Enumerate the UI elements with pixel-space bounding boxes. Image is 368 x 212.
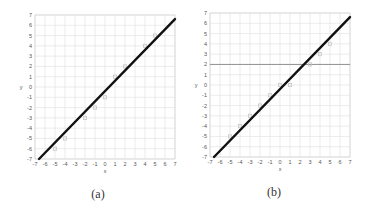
- chart-b: -7-6-5-4-3-2-101234567-7-6-5-4-3-2-10123…: [184, 0, 368, 180]
- svg-text:6: 6: [338, 159, 341, 165]
- y-axis-label: y: [20, 84, 23, 90]
- svg-text:7: 7: [348, 159, 351, 165]
- svg-text:-7: -7: [202, 154, 207, 160]
- grid: [210, 13, 350, 157]
- svg-text:2: 2: [29, 63, 32, 69]
- fit-line: [214, 17, 350, 157]
- svg-text:-1: -1: [268, 159, 273, 165]
- y-axis-label: y: [195, 82, 198, 88]
- svg-text:2: 2: [123, 161, 126, 167]
- svg-text:4: 4: [318, 159, 321, 165]
- svg-text:-4: -4: [202, 123, 207, 129]
- svg-text:-2: -2: [258, 159, 263, 165]
- svg-text:3: 3: [133, 161, 136, 167]
- svg-text:3: 3: [204, 51, 207, 57]
- svg-text:5: 5: [204, 31, 207, 37]
- svg-text:4: 4: [143, 161, 146, 167]
- svg-text:-2: -2: [83, 161, 88, 167]
- svg-text:5: 5: [328, 159, 331, 165]
- svg-text:-6: -6: [202, 144, 207, 150]
- svg-text:-1: -1: [93, 161, 98, 167]
- svg-text:6: 6: [163, 161, 166, 167]
- svg-text:6: 6: [204, 20, 207, 26]
- svg-text:-6: -6: [43, 161, 48, 167]
- svg-text:-3: -3: [202, 113, 207, 119]
- svg-text:-4: -4: [238, 159, 243, 165]
- svg-text:0: 0: [204, 82, 207, 88]
- caption-a: (a): [78, 187, 118, 202]
- svg-text:0: 0: [29, 84, 32, 90]
- svg-text:-2: -2: [202, 103, 207, 109]
- x-axis-label: x: [279, 166, 282, 172]
- svg-text:4: 4: [204, 41, 207, 47]
- svg-text:-5: -5: [228, 159, 233, 165]
- svg-text:-1: -1: [202, 92, 207, 98]
- chart-a: -7-6-5-4-3-2-101234567-7-6-5-4-3-2-10123…: [0, 0, 184, 180]
- svg-text:3: 3: [308, 159, 311, 165]
- x-axis-label: x: [104, 168, 107, 174]
- svg-text:-5: -5: [27, 135, 32, 141]
- svg-text:3: 3: [29, 53, 32, 59]
- svg-text:-3: -3: [73, 161, 78, 167]
- svg-text:1: 1: [29, 74, 32, 80]
- svg-text:-6: -6: [27, 146, 32, 152]
- fit-line: [39, 19, 175, 159]
- panel-b: -7-6-5-4-3-2-101234567-7-6-5-4-3-2-10123…: [184, 0, 368, 180]
- svg-text:0: 0: [103, 161, 106, 167]
- svg-text:6: 6: [29, 22, 32, 28]
- svg-text:-7: -7: [27, 156, 32, 162]
- grid: [35, 15, 175, 159]
- svg-text:-5: -5: [202, 133, 207, 139]
- svg-text:5: 5: [153, 161, 156, 167]
- svg-text:-3: -3: [248, 159, 253, 165]
- svg-text:-3: -3: [27, 115, 32, 121]
- svg-text:-1: -1: [27, 94, 32, 100]
- svg-text:0: 0: [278, 159, 281, 165]
- svg-text:7: 7: [173, 161, 176, 167]
- svg-text:-4: -4: [63, 161, 68, 167]
- svg-text:1: 1: [288, 159, 291, 165]
- svg-text:-6: -6: [218, 159, 223, 165]
- svg-text:-4: -4: [27, 125, 32, 131]
- svg-text:2: 2: [298, 159, 301, 165]
- svg-text:7: 7: [204, 10, 207, 16]
- svg-text:4: 4: [29, 43, 32, 49]
- svg-text:1: 1: [113, 161, 116, 167]
- svg-text:-7: -7: [33, 161, 38, 167]
- svg-text:5: 5: [29, 33, 32, 39]
- svg-text:-7: -7: [208, 159, 213, 165]
- svg-text:-5: -5: [53, 161, 58, 167]
- svg-text:1: 1: [204, 72, 207, 78]
- svg-text:7: 7: [29, 12, 32, 18]
- svg-text:-2: -2: [27, 105, 32, 111]
- panel-a: -7-6-5-4-3-2-101234567-7-6-5-4-3-2-10123…: [0, 0, 184, 180]
- svg-text:2: 2: [204, 61, 207, 67]
- caption-b: (b): [254, 185, 294, 200]
